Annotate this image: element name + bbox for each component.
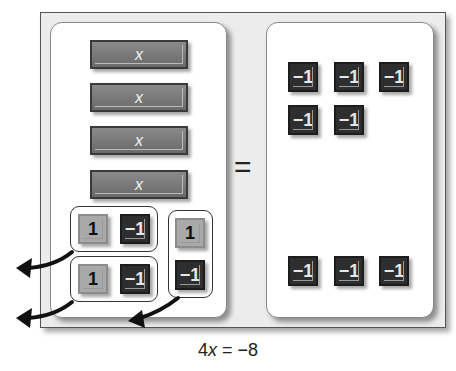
- variable: x: [208, 340, 217, 360]
- equation-caption: 4x = −8: [0, 340, 456, 361]
- curved-arrow-icon: [28, 252, 72, 268]
- curved-arrow-icon: [140, 298, 178, 318]
- equation-rest: = −8: [217, 340, 258, 360]
- curved-arrow-icon: [28, 302, 72, 318]
- removal-arrows: [0, 0, 456, 371]
- coefficient: 4: [198, 340, 208, 360]
